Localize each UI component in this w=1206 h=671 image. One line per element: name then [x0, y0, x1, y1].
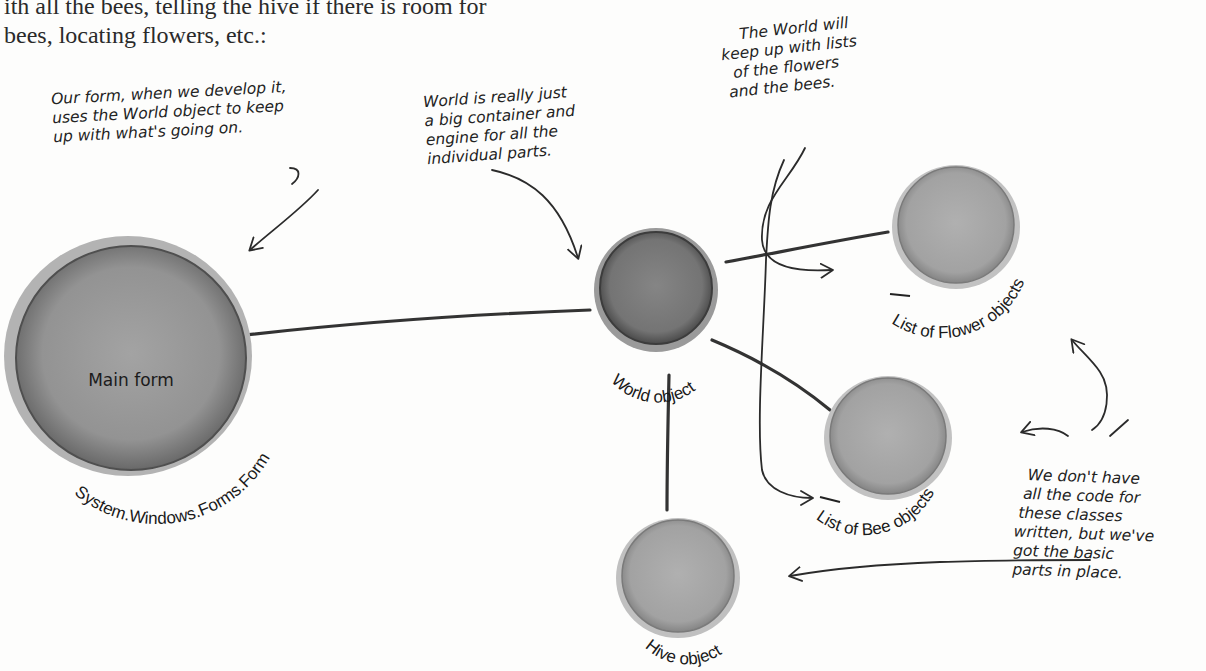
list-underline — [820, 497, 840, 502]
hive-node: Hive object — [616, 518, 740, 668]
world-annotation: World is really just a big container and… — [423, 83, 579, 169]
diagram-page: ith all the bees, telling the hive if th… — [0, 0, 1206, 671]
world-node-label: World object — [608, 370, 699, 406]
connector-lines — [246, 232, 888, 510]
bee-list-node: List of Bee objects — [813, 376, 952, 539]
main-form-node: Main form System.Windows.Forms.Form — [4, 236, 274, 528]
lists-annotation: The World will keep up with lists of the… — [718, 13, 861, 103]
code-annotation: We don't have all the code for these cla… — [1012, 466, 1156, 585]
hive-node-label: Hive object — [642, 636, 725, 669]
list-underline — [890, 294, 910, 296]
main-form-label: Main form — [88, 370, 174, 390]
world-node: World object — [594, 228, 718, 407]
flower-list-node: List of Flower objects — [889, 165, 1028, 342]
